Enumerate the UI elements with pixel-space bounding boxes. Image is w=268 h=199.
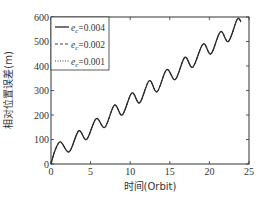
x-tick-label: 15 bbox=[165, 166, 175, 177]
y-tick-label: 200 bbox=[34, 110, 49, 121]
y-tick-label: 100 bbox=[34, 134, 49, 145]
x-tick-label: 25 bbox=[244, 166, 254, 177]
y-tick-label: 600 bbox=[34, 12, 49, 23]
x-tick-label: 0 bbox=[49, 166, 54, 177]
y-axis-label: 相对位置误差(m) bbox=[2, 51, 14, 129]
legend: ec=0.004ec=0.002ec=0.001 bbox=[51, 17, 109, 70]
line-chart: 05101520250100200300400500600 ec=0.004ec… bbox=[0, 0, 268, 199]
y-tick-label: 300 bbox=[34, 85, 49, 96]
y-tick-label: 400 bbox=[34, 61, 49, 72]
x-tick-label: 5 bbox=[88, 166, 93, 177]
y-tick-label: 500 bbox=[34, 36, 49, 47]
x-tick-label: 10 bbox=[125, 166, 135, 177]
x-axis-label: 时间(Orbit) bbox=[124, 180, 177, 192]
y-tick-label: 0 bbox=[44, 159, 49, 170]
x-tick-label: 20 bbox=[204, 166, 214, 177]
